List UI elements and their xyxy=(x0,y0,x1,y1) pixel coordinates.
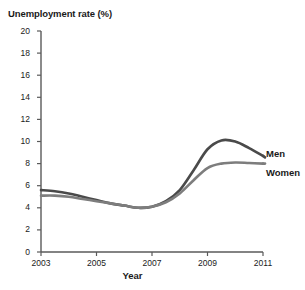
x-axis-title: Year xyxy=(0,270,265,281)
chart-figure: Unemployment rate (%) 02468101214161820 … xyxy=(0,0,305,290)
series-label-men: Men xyxy=(266,148,285,159)
plot-area xyxy=(0,0,305,290)
series-label-women: Women xyxy=(266,167,300,178)
series-line-women xyxy=(41,162,263,207)
series-leader-men xyxy=(263,156,265,158)
data-series-lines xyxy=(41,140,265,208)
